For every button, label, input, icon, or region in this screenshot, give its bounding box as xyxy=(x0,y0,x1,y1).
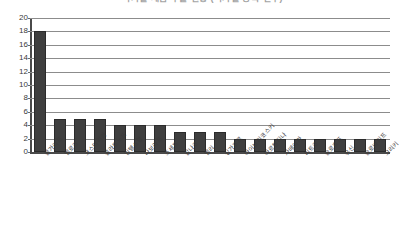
x-tick-label-wrap: 코스터리카 xyxy=(83,153,88,158)
x-tick-label-wrap: 벨리 xyxy=(203,153,208,158)
bar[interactable] xyxy=(34,31,46,152)
x-tick-label-wrap: 아이보리코스키 xyxy=(243,153,248,158)
x-tick-label-wrap: 아르헨티나 xyxy=(263,153,268,158)
y-tick-label: 12 xyxy=(2,68,28,76)
x-tick-label-wrap: 조세프 xyxy=(163,153,168,158)
y-axis-tick-labels: 20181614121086420 xyxy=(0,18,28,152)
x-tick-label-wrap: 비트코 xyxy=(303,153,308,158)
y-tick-label: 20 xyxy=(2,14,28,22)
x-tick-label-wrap: 슬로바키프 xyxy=(363,153,368,158)
y-tick-label: 4 xyxy=(2,121,28,129)
x-axis-category-labels: 불가리프벨로크코스터리카홀라토노프인텔스함나보라프조세프갈나코벨리싱가포르아이보… xyxy=(30,153,390,226)
x-tick-label-wrap: 유신 xyxy=(343,153,348,158)
x-tick-label-wrap: 나보라프 xyxy=(143,153,148,158)
x-tick-label-wrap: 자메이카 xyxy=(283,153,288,158)
y-tick-label: 14 xyxy=(2,54,28,62)
x-tick-label-wrap: 벨로크 xyxy=(63,153,68,158)
plot-area xyxy=(30,18,390,152)
x-tick-label-wrap: 불가리프 xyxy=(43,153,48,158)
x-tick-label-wrap: 홀라토노프 xyxy=(103,153,108,158)
x-tick-label-wrap: 갈나코 xyxy=(183,153,188,158)
y-tick-label: 18 xyxy=(2,27,28,35)
y-tick-label: 2 xyxy=(2,135,28,143)
y-tick-label: 8 xyxy=(2,94,28,102)
x-tick-label-wrap: 그리키 xyxy=(383,153,388,158)
x-tick-label-wrap: 싱가포르 xyxy=(223,153,228,158)
bar-chart: 국가별 제품 수출 현황 (국가별 등록 건수) 201816141210864… xyxy=(0,0,405,226)
y-tick-label: 0 xyxy=(2,148,28,156)
y-tick-label: 10 xyxy=(2,81,28,89)
x-tick-label-wrap: 슬로흐프 xyxy=(323,153,328,158)
y-tick-label: 16 xyxy=(2,41,28,49)
chart-title: 국가별 제품 수출 현황 (국가별 등록 건수) xyxy=(0,0,405,4)
y-tick-label: 6 xyxy=(2,108,28,116)
bars-layer xyxy=(30,18,390,152)
x-tick-label-wrap: 인텔스함 xyxy=(123,153,128,158)
